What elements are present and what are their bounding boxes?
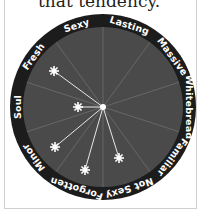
star-icon bbox=[114, 153, 124, 163]
star-icon bbox=[49, 66, 59, 76]
radial-wheel-diagram: SexyLastingMassiveWhitebreadFamiliarNot … bbox=[0, 0, 204, 212]
star-icon bbox=[50, 142, 60, 152]
rim-label-whitebread: Whitebread bbox=[184, 75, 195, 140]
center-dot bbox=[100, 104, 106, 110]
star-icon bbox=[73, 102, 83, 112]
star-icon bbox=[80, 165, 90, 175]
rim-label-soul: Soul bbox=[12, 95, 23, 119]
